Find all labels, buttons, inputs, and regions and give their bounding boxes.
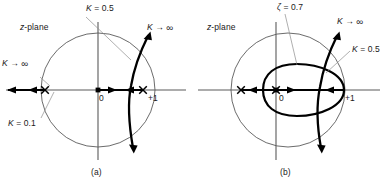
annotation-k-eq-0-5-a: K = 0.5 [86, 3, 114, 13]
annotation-zeta-eq-0-7-b: ζ = 0.7 [277, 2, 303, 12]
annotation-k-to-infinity-b: K → ∞ [337, 16, 363, 26]
annotation-k-to-infinity-right-a: K → ∞ [147, 22, 173, 32]
caption-b: (b) [280, 167, 291, 177]
locus-branch-arrow-up-a [144, 32, 152, 41]
origin-marker-a [96, 88, 101, 93]
annotation-k-eq-0-5-b: K = 0.5 [352, 44, 380, 54]
caption-a: (a) [91, 167, 102, 177]
axis-label-origin-b: 0 [279, 93, 284, 103]
leader-zeta-b [285, 14, 297, 65]
axis-label-plus-one-a: +1 [148, 93, 158, 103]
locus-branch-arrow-down-b [317, 145, 326, 154]
locus-arrow-left-b [248, 87, 257, 94]
annotation-k-eq-0-1-a: K = 0.1 [8, 118, 36, 128]
locus-arrow-left-inner-a [28, 87, 37, 94]
leader-k-0-5-a [86, 17, 131, 60]
root-locus-figure [0, 0, 390, 187]
locus-branch-arrow-up-b [333, 32, 341, 41]
locus-arrow-origin-a [108, 87, 117, 94]
locus-branch-arrow-down-a [129, 145, 138, 154]
plane-label-b: z-plane [207, 22, 236, 32]
axis-label-plus-one-b: +1 [345, 93, 355, 103]
panel-b [198, 14, 380, 160]
axis-label-origin-a: 0 [99, 93, 104, 103]
locus-arrow-left-a [7, 87, 16, 94]
locus-arrow-origin-b [287, 87, 296, 94]
locus-arrow-right-b [325, 87, 334, 94]
panel-a [6, 17, 186, 160]
annotation-k-to-infinity-left-a: K → ∞ [2, 58, 28, 68]
plane-label-a: z-plane [20, 22, 49, 32]
